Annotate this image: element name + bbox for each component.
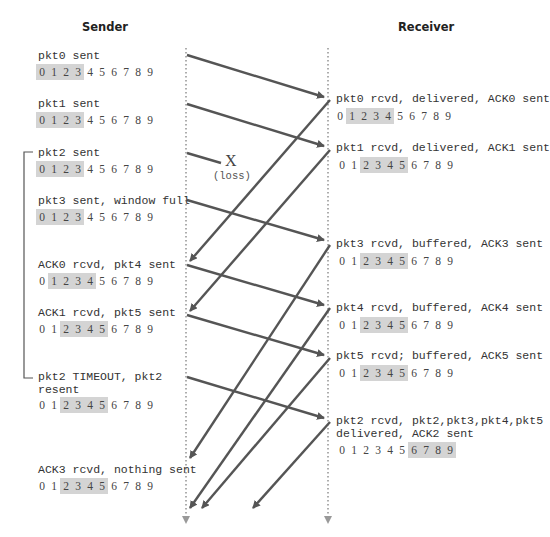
seq-number: 4: [84, 112, 96, 128]
seq-number: 1: [348, 253, 360, 269]
seq-number: 0: [336, 157, 348, 173]
seq-number: 4: [384, 253, 396, 269]
seq-number: 1: [348, 317, 360, 333]
seq-number: 2: [360, 253, 372, 269]
seq-number: 7: [120, 64, 132, 80]
seq-number: 3: [72, 64, 84, 80]
seq-number: 7: [120, 478, 132, 494]
seq-number: 0: [336, 365, 348, 381]
seq-number: 8: [132, 321, 144, 337]
seq-number: 0: [334, 108, 346, 124]
seq-number: 2: [360, 317, 372, 333]
seq-number: 6: [108, 397, 120, 413]
seq-number: 7: [420, 157, 432, 173]
seq-number: 2: [360, 442, 372, 458]
seq-number: 4: [84, 273, 96, 289]
receiver-window: 0123456789: [336, 317, 456, 333]
sender-event-label: ACK1 rcvd, pkt5 sent: [38, 306, 176, 319]
seq-number: 1: [48, 321, 60, 337]
seq-number: 6: [108, 112, 120, 128]
seq-number: 2: [60, 321, 72, 337]
seq-number: 5: [396, 253, 408, 269]
seq-number: 6: [108, 273, 120, 289]
seq-number: 0: [36, 273, 48, 289]
seq-number: 4: [384, 157, 396, 173]
seq-number: 3: [72, 209, 84, 225]
receiver-window: 0123456789: [336, 253, 456, 269]
seq-number: 4: [84, 64, 96, 80]
seq-number: 5: [96, 397, 108, 413]
loss-mark: X: [225, 152, 237, 170]
seq-number: 4: [84, 397, 96, 413]
seq-number: 9: [144, 273, 156, 289]
seq-number: 2: [60, 397, 72, 413]
seq-number: 4: [84, 478, 96, 494]
sender-event-label: pkt3 sent, window full: [38, 194, 190, 207]
seq-number: 1: [48, 161, 60, 177]
sender-window: 0123456789: [36, 478, 156, 494]
arrow-pkt2-resent: [187, 377, 324, 418]
seq-number: 0: [36, 161, 48, 177]
seq-number: 4: [384, 317, 396, 333]
loss-label: (loss): [213, 170, 251, 182]
seq-number: 3: [372, 157, 384, 173]
seq-number: 6: [108, 209, 120, 225]
receiver-window: 0123456789: [336, 157, 456, 173]
seq-number: 5: [96, 161, 108, 177]
sender-event-label: ACK3 rcvd, nothing sent: [38, 463, 197, 476]
seq-number: 0: [336, 317, 348, 333]
seq-number: 0: [36, 478, 48, 494]
seq-number: 7: [420, 253, 432, 269]
seq-number: 8: [132, 209, 144, 225]
seq-number: 5: [96, 321, 108, 337]
seq-number: 6: [408, 365, 420, 381]
seq-number: 6: [108, 321, 120, 337]
seq-number: 6: [408, 442, 420, 458]
seq-number: 4: [84, 209, 96, 225]
seq-number: 8: [132, 161, 144, 177]
seq-number: 9: [144, 112, 156, 128]
seq-number: 1: [346, 108, 358, 124]
seq-number: 6: [408, 157, 420, 173]
seq-number: 7: [420, 442, 432, 458]
seq-number: 7: [120, 209, 132, 225]
seq-number: 4: [382, 108, 394, 124]
arrow-pkt5: [187, 315, 324, 355]
seq-number: 5: [96, 112, 108, 128]
seq-number: 3: [372, 442, 384, 458]
seq-number: 9: [444, 157, 456, 173]
seq-number: 7: [120, 397, 132, 413]
seq-number: 8: [432, 442, 444, 458]
seq-number: 3: [370, 108, 382, 124]
seq-number: 8: [432, 253, 444, 269]
seq-number: 8: [132, 478, 144, 494]
seq-number: 3: [72, 161, 84, 177]
seq-number: 5: [96, 64, 108, 80]
sender-window: 0123456789: [36, 321, 156, 337]
receiver-window: 0123456789: [336, 365, 456, 381]
seq-number: 2: [358, 108, 370, 124]
arrow-ack4: [190, 308, 330, 508]
sender-event-label: pkt1 sent: [38, 97, 100, 110]
timeout-bracket: [24, 152, 33, 378]
receiver-event-label: pkt4 rcvd, buffered, ACK4 sent: [336, 301, 543, 314]
seq-number: 8: [132, 112, 144, 128]
seq-number: 1: [48, 209, 60, 225]
seq-number: 5: [396, 365, 408, 381]
receiver-event-label: pkt3 rcvd, buffered, ACK3 sent: [336, 237, 543, 250]
seq-number: 8: [132, 397, 144, 413]
seq-number: 1: [48, 64, 60, 80]
seq-number: 9: [144, 161, 156, 177]
seq-number: 4: [384, 365, 396, 381]
seq-number: 6: [108, 478, 120, 494]
sender-window: 0123456789: [36, 161, 156, 177]
seq-number: 8: [132, 273, 144, 289]
seq-number: 2: [60, 273, 72, 289]
seq-number: 2: [60, 112, 72, 128]
seq-number: 9: [444, 442, 456, 458]
seq-number: 6: [408, 317, 420, 333]
seq-number: 1: [48, 273, 60, 289]
receiver-event-label: pkt1 rcvd, delivered, ACK1 sent: [336, 141, 550, 154]
seq-number: 5: [396, 317, 408, 333]
receiver-event-label: pkt5 rcvd; buffered, ACK5 sent: [336, 349, 543, 362]
